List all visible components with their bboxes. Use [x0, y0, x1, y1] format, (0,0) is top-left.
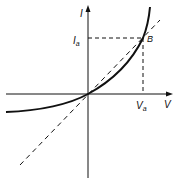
va-label: Va	[136, 100, 147, 112]
ia-label: Ia	[73, 35, 80, 47]
point-b-label: B	[147, 34, 153, 44]
x-axis-label: V	[164, 99, 172, 110]
x-axis-arrow-icon	[166, 92, 173, 97]
y-axis-arrow-icon	[86, 5, 91, 12]
iv-curve	[6, 7, 150, 112]
y-axis-label: I	[80, 8, 83, 19]
iv-diagram: I V B Ia Va	[0, 0, 179, 180]
